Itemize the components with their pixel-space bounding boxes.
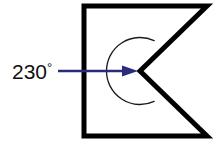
degree-symbol: ° (47, 60, 52, 75)
reflex-angle-figure: 230° (0, 0, 217, 151)
angle-measure-label: 230° (12, 60, 52, 84)
figure-container: 230° (0, 0, 217, 151)
angle-measure-number: 230 (12, 60, 47, 83)
